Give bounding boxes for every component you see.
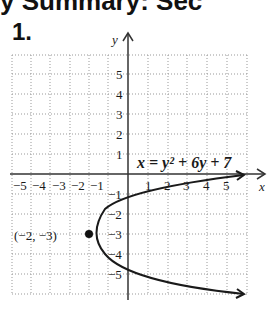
- svg-text:−2: −2: [71, 178, 85, 193]
- grid: [12, 55, 247, 295]
- parabola-graph: x y −5 −4 −3 −2 −1 1 2 3 4 5 5 4 3 2 1 −…: [0, 0, 277, 312]
- y-axis-label: y: [110, 32, 118, 47]
- svg-text:1: 1: [116, 147, 123, 162]
- svg-text:−3: −3: [52, 178, 66, 193]
- svg-text:3: 3: [183, 178, 190, 193]
- svg-text:−1: −1: [90, 178, 104, 193]
- svg-text:−3: −3: [108, 227, 122, 242]
- svg-text:−2: −2: [108, 207, 122, 222]
- equation-label: x = y² + 6y + 7: [136, 154, 232, 172]
- svg-text:5: 5: [223, 178, 230, 193]
- svg-text:3: 3: [116, 107, 123, 122]
- vertex-point: [85, 230, 93, 238]
- vertex-label: (−2, −3): [14, 228, 57, 243]
- svg-text:−5: −5: [13, 178, 27, 193]
- x-axis-label: x: [258, 179, 265, 194]
- svg-text:−5: −5: [108, 267, 122, 282]
- svg-text:5: 5: [116, 67, 123, 82]
- svg-text:2: 2: [116, 127, 123, 142]
- svg-text:−4: −4: [32, 178, 46, 193]
- svg-text:4: 4: [116, 87, 123, 102]
